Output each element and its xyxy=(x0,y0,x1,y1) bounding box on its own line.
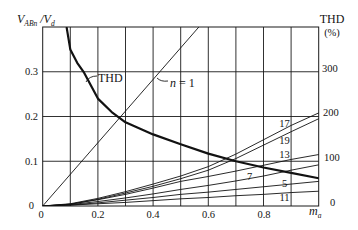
x-tick-0.2: 0.2 xyxy=(91,209,104,220)
harmonic-19-label: 19 xyxy=(279,135,290,146)
y2-tick-300: 300 xyxy=(322,63,338,74)
y-tick-0: 0 xyxy=(29,200,34,211)
harmonic-17-label: 17 xyxy=(279,118,290,129)
y2-axis-unit: (%) xyxy=(324,27,340,39)
y-tick-0.3: 0.3 xyxy=(25,66,38,77)
harmonics-vs-modulation-chart: VABn /Vd THD (%) 0 0.1 0.2 0.3 0 100 200… xyxy=(0,0,358,230)
n1-leader-line xyxy=(157,78,168,81)
y2-axis-title: THD xyxy=(320,12,345,26)
y2-tick-0: 0 xyxy=(330,197,335,208)
x-tick-0: 0 xyxy=(38,209,43,220)
y-tick-0.2: 0.2 xyxy=(25,111,38,122)
y-axis-title: VABn /Vd xyxy=(17,12,55,28)
thd-curve-label: THD xyxy=(98,71,123,85)
harmonic-11-label: 11 xyxy=(279,192,289,203)
y-tick-0.1: 0.1 xyxy=(25,156,38,167)
x-tick-0.4: 0.4 xyxy=(146,209,160,220)
harmonic-5-label: 5 xyxy=(282,178,287,189)
n1-label: n = 1 xyxy=(170,76,195,90)
x-axis-title: ma xyxy=(309,204,322,220)
y2-tick-200: 200 xyxy=(323,107,339,118)
x-tick-0.8: 0.8 xyxy=(257,209,270,220)
y2-tick-100: 100 xyxy=(324,152,340,163)
x-tick-0.6: 0.6 xyxy=(202,209,215,220)
harmonic-13-label: 13 xyxy=(279,149,290,160)
harmonic-7-label: 7 xyxy=(247,171,252,182)
